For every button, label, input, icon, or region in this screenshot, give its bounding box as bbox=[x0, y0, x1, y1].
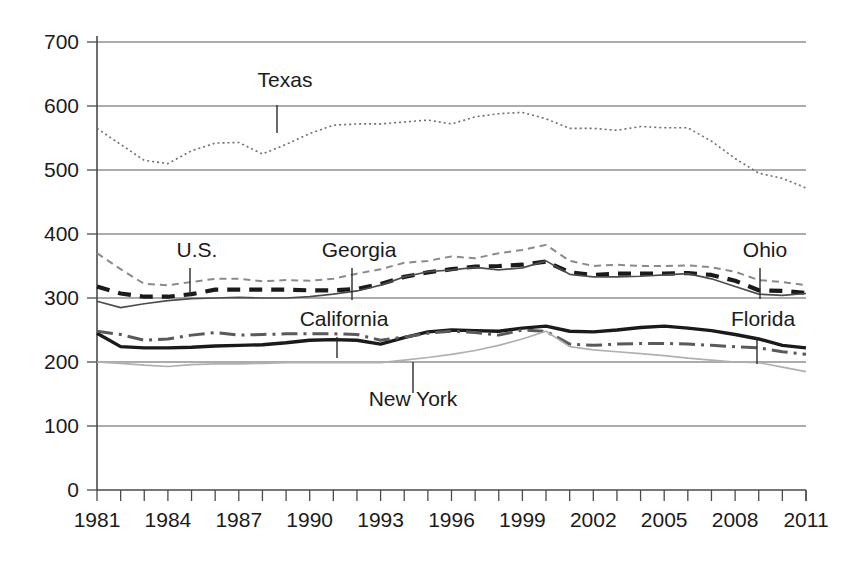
series-label-california: California bbox=[300, 307, 389, 330]
x-tick-label-1990: 1990 bbox=[286, 508, 333, 531]
x-tick-label-2002: 2002 bbox=[570, 508, 617, 531]
y-tick-label-200: 200 bbox=[44, 350, 79, 373]
x-tick-label-1996: 1996 bbox=[428, 508, 475, 531]
series-line-texas bbox=[97, 112, 806, 188]
x-tick-labels: 1981198419871990199319961999200220052008… bbox=[74, 508, 829, 531]
x-tick-label-2005: 2005 bbox=[641, 508, 688, 531]
y-tick-labels: 0100200300400500600700 bbox=[44, 30, 79, 501]
series-label-texas: Texas bbox=[258, 68, 313, 91]
y-tick-label-100: 100 bbox=[44, 414, 79, 437]
series-label-florida: Florida bbox=[731, 307, 796, 330]
y-tick-label-500: 500 bbox=[44, 158, 79, 181]
x-tick-label-2008: 2008 bbox=[712, 508, 759, 531]
series-line-florida bbox=[97, 330, 806, 354]
x-tick-label-1987: 1987 bbox=[215, 508, 262, 531]
x-axis bbox=[97, 490, 806, 501]
series-line-california bbox=[97, 326, 806, 348]
x-tick-label-1984: 1984 bbox=[145, 508, 192, 531]
chart-svg: TexasU.S.GeorgiaOhioCaliforniaFloridaNew… bbox=[0, 0, 841, 561]
series-label-ohio: Ohio bbox=[743, 238, 787, 261]
series-label-new-york: New York bbox=[369, 387, 458, 410]
gridlines bbox=[97, 42, 806, 426]
y-axis bbox=[87, 36, 97, 490]
series-line-georgia bbox=[97, 262, 806, 297]
series-line-new-york bbox=[97, 331, 806, 371]
x-tick-label-1981: 1981 bbox=[74, 508, 121, 531]
x-tick-label-1993: 1993 bbox=[357, 508, 404, 531]
y-tick-label-700: 700 bbox=[44, 30, 79, 53]
y-tick-label-300: 300 bbox=[44, 286, 79, 309]
x-tick-label-2011: 2011 bbox=[783, 508, 828, 531]
y-tick-label-400: 400 bbox=[44, 222, 79, 245]
series-label-u-s: U.S. bbox=[177, 238, 218, 261]
line-chart: TexasU.S.GeorgiaOhioCaliforniaFloridaNew… bbox=[0, 0, 841, 561]
y-tick-label-0: 0 bbox=[67, 478, 79, 501]
y-tick-label-600: 600 bbox=[44, 94, 79, 117]
series-label-georgia: Georgia bbox=[322, 238, 397, 261]
x-tick-label-1999: 1999 bbox=[499, 508, 546, 531]
